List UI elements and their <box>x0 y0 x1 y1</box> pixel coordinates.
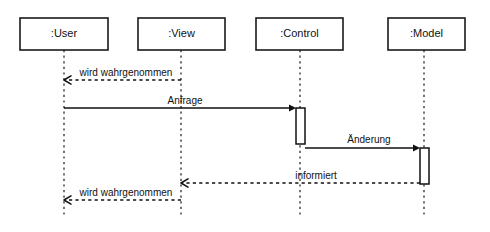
lifeline-label-view: :View <box>168 27 195 39</box>
sequence-diagram-canvas: :User:View:Control:Model wird wahrgenomm… <box>0 0 490 232</box>
msg-anfrage-arrowhead <box>289 104 296 111</box>
labels-layer: wird wahrgenommenAnfrageÄnderunginformie… <box>79 67 391 198</box>
activation-model <box>420 148 429 184</box>
lifeline-label-user: :User <box>51 27 78 39</box>
lifeline-label-model: :Model <box>410 27 443 39</box>
msg-anfrage-label: Anfrage <box>167 95 202 106</box>
msg-wird-wahrgenommen-1-label: wird wahrgenommen <box>79 67 173 78</box>
activation-control <box>296 108 305 144</box>
lifeline-model[interactable]: :Model <box>388 18 465 218</box>
msg-wird-wahrgenommen-2-label: wird wahrgenommen <box>79 187 173 198</box>
msg-aenderung-label: Änderung <box>347 134 390 145</box>
msg-aenderung[interactable] <box>305 144 420 151</box>
msg-informiert-label: informiert <box>295 170 337 181</box>
lifeline-label-control: :Control <box>280 27 319 39</box>
msg-aenderung-arrowhead <box>413 144 420 151</box>
sequence-diagram-svg: :User:View:Control:Model wird wahrgenomm… <box>0 0 490 232</box>
